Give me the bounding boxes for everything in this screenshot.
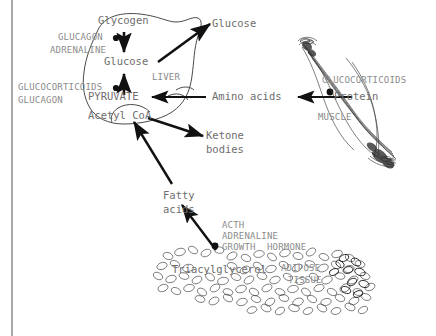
- label-hormone-adrenaline-liver: ADRENALINE: [50, 46, 106, 55]
- label-adipose-organ-line2: TISSUE: [288, 276, 322, 285]
- label-liver-organ: LIVER: [152, 73, 180, 82]
- label-hormone-growth-hormone: GROWTH HORMONE: [222, 243, 306, 252]
- label-hormone-glucocorticoids-liver: GLUCOCORTICOIDS: [18, 83, 102, 92]
- label-glycogen: Glycogen: [98, 15, 149, 26]
- label-hormone-glucagon-glycogenolysis: GLUCAGON: [58, 33, 103, 42]
- label-glucose-liver: Glucose: [104, 56, 148, 67]
- label-glucose-circulating: Glucose: [212, 18, 256, 29]
- label-fatty-acids-line1: Fatty: [163, 190, 195, 201]
- dot-glycogenolysis: [113, 35, 119, 41]
- label-triacylglycerol: Triacylglycerol: [172, 264, 267, 275]
- label-hormone-adrenaline-adipose: ADRENALINE: [222, 232, 278, 241]
- arrow-acetylcoa-to-ketones: [148, 118, 203, 136]
- arrow-fattyacids-to-acetylcoa: [134, 122, 172, 184]
- label-fatty-acids-line2: acids: [163, 204, 195, 215]
- muscle-illustration: [298, 37, 396, 167]
- label-amino-acids: Amino acids: [212, 91, 282, 102]
- label-ketone-bodies-line2: bodies: [206, 144, 244, 155]
- label-protein: Protein: [334, 91, 378, 102]
- label-hormone-acth: ACTH: [222, 221, 244, 230]
- label-ketone-bodies-line1: Ketone: [206, 130, 244, 141]
- label-pyruvate: PYRUVATE: [88, 91, 139, 102]
- liver-outline: [83, 14, 201, 124]
- label-hormone-glucocorticoids-muscle: GLUCOCORTICOIDS: [322, 76, 406, 85]
- dot-proteolysis: [327, 89, 334, 96]
- label-adipose-organ-line1: ADIPOSE: [281, 264, 320, 273]
- metabolic-pathway-diagram: Glycogen Glucose PYRUVATE Acetyl CoA LIV…: [0, 0, 436, 336]
- arrow-glucose-to-blood: [158, 24, 210, 62]
- adipose-illustration: [152, 245, 376, 317]
- label-muscle-organ: MUSCLE: [318, 113, 352, 122]
- dot-lipolysis: [212, 243, 219, 250]
- label-hormone-glucagon-gluconeogenesis: GLUCAGON: [18, 96, 63, 105]
- label-acetyl-coa: Acetyl CoA: [88, 110, 151, 121]
